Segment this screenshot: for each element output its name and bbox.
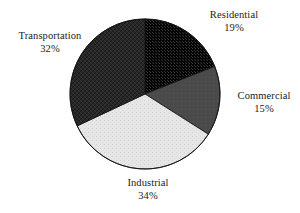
pie-label-commercial-name: Commercial [228, 90, 300, 103]
pie-label-transportation-name: Transportation [4, 30, 96, 43]
pie-label-industrial-name: Industrial [102, 177, 194, 190]
pie-label-residential-value: 19% [188, 22, 280, 35]
pie-label-commercial: Commercial 15% [228, 90, 300, 115]
pie-label-industrial-value: 34% [102, 190, 194, 203]
pie-label-commercial-value: 15% [228, 103, 300, 116]
pie-label-transportation-value: 32% [4, 43, 96, 56]
pie-label-residential-name: Residential [188, 9, 280, 22]
pie-label-residential: Residential 19% [188, 9, 280, 34]
pie-label-transportation: Transportation 32% [4, 30, 96, 55]
pie-chart-figure: Residential 19% Commercial 15% Industria… [0, 0, 300, 213]
pie-label-industrial: Industrial 34% [102, 177, 194, 202]
